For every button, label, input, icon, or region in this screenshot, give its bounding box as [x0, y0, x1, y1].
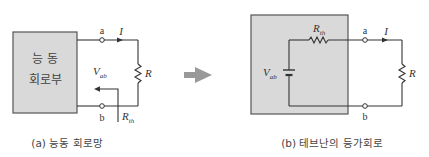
load-resistor-b-icon	[399, 64, 405, 83]
load-resistor-icon	[135, 64, 141, 83]
caption-b: (b) 테브난의 등가회로	[281, 137, 383, 149]
terminal-a-label: a	[100, 25, 105, 36]
terminal-b-icon	[100, 104, 105, 109]
terminal-b-label: b	[100, 112, 105, 123]
terminal-a-b-label: a	[363, 25, 368, 36]
circuit-diagram: 능 동 회로부 a b I R Vab Rth (a) 능동 회로망	[0, 0, 429, 157]
terminal-a-icon	[100, 38, 105, 43]
diagram-a: 능 동 회로부 a b I R Vab Rth (a) 능동 회로망	[13, 25, 152, 149]
current-arrow-icon	[117, 38, 123, 43]
thevenin-block	[251, 15, 348, 114]
rth-arrow-icon	[94, 86, 100, 91]
load-label: R	[144, 67, 152, 79]
caption-a: (a) 능동 회로망	[31, 137, 102, 149]
terminal-b-b-label: b	[363, 111, 368, 122]
terminal-a-b-icon	[363, 38, 368, 43]
current-arrow-b-icon	[382, 38, 388, 43]
rth-label: Rth	[121, 110, 135, 125]
diagram-b: Rth a b I R Vab (b) 테브난의 등가회로	[251, 15, 416, 149]
current-label: I	[118, 25, 124, 37]
transition-arrow-icon	[184, 67, 212, 83]
terminal-b-b-icon	[363, 104, 368, 109]
voltage-label: Vab	[93, 65, 107, 80]
block-label-line2: 회로부	[29, 73, 62, 87]
current-b-label: I	[383, 25, 389, 37]
block-label-line1: 능 동	[32, 52, 58, 66]
load-b-label: R	[408, 67, 416, 79]
